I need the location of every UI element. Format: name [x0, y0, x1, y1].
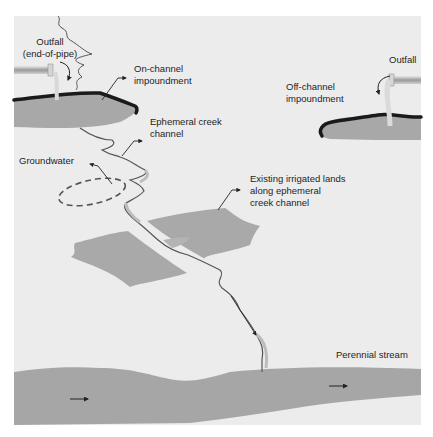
label-perennial-stream: Perennial stream [336, 349, 408, 361]
water-management-diagram: Outfall (end-of-pipe) On-channel impound… [0, 0, 433, 437]
label-irrigated-lands: Existing irrigated lands along ephemeral… [250, 173, 346, 209]
label-outfall-right: Outfall [389, 54, 416, 66]
label-on-channel-impoundment: On-channel impoundment [134, 63, 192, 87]
label-off-channel-impoundment: Off-channel impoundment [286, 81, 344, 105]
label-groundwater: Groundwater [19, 155, 74, 167]
diagram-canvas [0, 0, 433, 437]
label-outfall-left: Outfall (end-of-pipe) [18, 36, 82, 60]
label-ephemeral-creek-channel: Ephemeral creek channel [150, 116, 222, 140]
